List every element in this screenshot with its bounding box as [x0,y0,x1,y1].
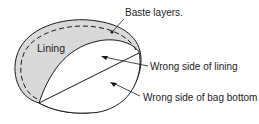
wrong-side-lining-label: Wrong side of lining [150,61,238,72]
bag-lining-diagram: Lining Baste layers. Wrong side of linin… [0,0,259,124]
baste-leader-dot [110,30,113,33]
lining-label: Lining [37,42,65,54]
wrong-side-bag-bottom-label: Wrong side of bag bottom [143,92,257,103]
baste-layers-label: Baste layers. [125,7,183,18]
